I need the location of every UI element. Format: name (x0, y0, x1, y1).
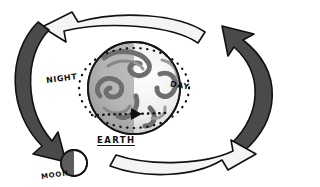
diagram-svg (0, 0, 320, 187)
diagram-canvas: NIGHT DAY EARTH MOON (0, 0, 320, 187)
right-arrow (222, 26, 272, 152)
label-earth: EARTH (97, 135, 135, 146)
top-arrow (42, 12, 205, 43)
left-arrow (15, 22, 66, 162)
